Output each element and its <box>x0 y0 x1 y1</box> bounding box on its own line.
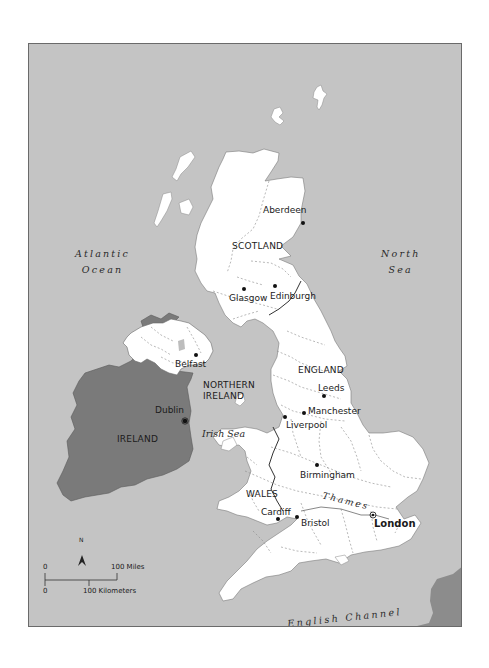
city-edinburgh: Edinburgh <box>270 292 316 301</box>
map-frame: Atlantic Ocean North Sea Irish Sea Engli… <box>28 43 462 627</box>
scale-bar <box>45 573 117 586</box>
city-bristol: Bristol <box>301 519 330 528</box>
city-birmingham: Birmingham <box>300 471 355 480</box>
north-arrow-glyph <box>78 555 86 566</box>
wales-label: WALES <box>246 490 278 499</box>
lough-neagh <box>178 339 185 351</box>
map-canvas <box>29 44 462 627</box>
city-leeds: Leeds <box>318 384 344 393</box>
city-dublin: Dublin <box>155 406 184 415</box>
scale-km-label: 100 Kilometers <box>83 588 136 595</box>
city-belfast: Belfast <box>175 360 206 369</box>
city-liverpool: Liverpool <box>286 421 327 430</box>
north-arrow-label: N <box>79 537 84 543</box>
city-cardiff: Cardiff <box>261 508 291 517</box>
great-britain-landmass <box>195 149 429 601</box>
outer-hebrides <box>172 151 195 181</box>
city-glasgow: Glasgow <box>229 294 267 303</box>
city-aberdeen: Aberdeen <box>263 206 306 215</box>
shetland-islands <box>313 85 327 110</box>
scale-km-zero: 0 <box>43 588 47 595</box>
irish-sea-label: Irish Sea <box>202 429 245 439</box>
scale-miles-label: 100 Miles <box>111 564 144 571</box>
orkney-islands <box>271 107 284 125</box>
city-manchester: Manchester <box>308 407 361 416</box>
city-london: London <box>374 519 416 529</box>
scale-miles-zero: 0 <box>43 564 47 571</box>
north-sea-label: North Sea <box>381 249 421 274</box>
ireland-label: IRELAND <box>117 435 158 444</box>
atlantic-ocean-label: Atlantic Ocean <box>75 249 130 274</box>
england-label: ENGLAND <box>298 366 344 375</box>
scotland-label: SCOTLAND <box>232 242 283 251</box>
northern-ireland-label: NORTHERN IRELAND <box>203 380 255 402</box>
france-landmass <box>391 566 462 627</box>
